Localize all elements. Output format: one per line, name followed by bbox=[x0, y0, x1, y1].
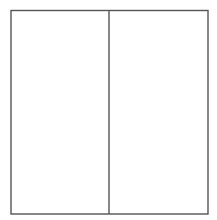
right-half bbox=[109, 11, 208, 215]
diagram-canvas bbox=[0, 0, 217, 220]
left-half bbox=[11, 11, 109, 215]
divided-rectangle-diagram bbox=[0, 0, 217, 220]
